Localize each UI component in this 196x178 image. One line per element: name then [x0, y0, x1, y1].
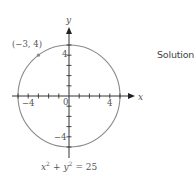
point-marker — [37, 54, 40, 57]
y-tick-label-4: 4 — [62, 49, 67, 59]
y-tick-label-neg4: −4 — [54, 132, 67, 142]
y-axis-arrow-icon — [66, 27, 72, 34]
circle-graph: x y −4 4 4 −4 0 (−3, 4) x2+y2= 25 — [0, 0, 196, 178]
x-axis-arrow-icon — [128, 93, 135, 99]
x-tick-label-neg4: −4 — [22, 98, 35, 108]
point-annotation: (−3, 4) — [12, 39, 42, 49]
origin-label: 0 — [63, 97, 68, 107]
solution-label: Solution — [157, 49, 194, 60]
x-tick-label-4: 4 — [107, 98, 112, 108]
y-axis-label: y — [65, 15, 72, 25]
x-axis-label: x — [138, 92, 143, 102]
equation-label: x2+y2= 25 — [41, 160, 98, 172]
